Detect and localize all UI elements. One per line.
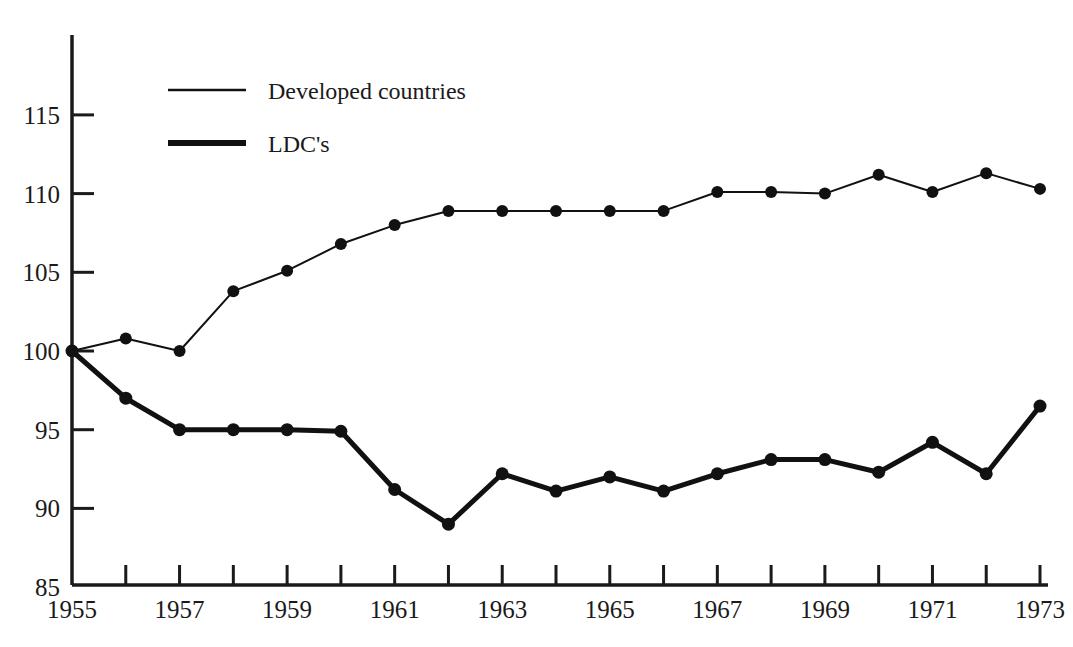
data-point xyxy=(281,265,293,277)
x-tick-label-1973: 1973 xyxy=(1015,596,1065,623)
data-point xyxy=(227,423,240,436)
data-point xyxy=(550,485,563,498)
data-point xyxy=(334,425,347,438)
data-point xyxy=(873,169,885,181)
data-point xyxy=(657,485,670,498)
chart-background xyxy=(0,0,1073,647)
data-point xyxy=(765,453,778,466)
data-point xyxy=(335,238,347,250)
data-point xyxy=(550,205,562,217)
data-point xyxy=(818,453,831,466)
x-tick-label-1961: 1961 xyxy=(370,596,420,623)
y-tick-label-110: 110 xyxy=(23,181,60,208)
data-point xyxy=(980,167,992,179)
data-point xyxy=(442,205,454,217)
data-point xyxy=(388,483,401,496)
data-point xyxy=(926,186,938,198)
data-point xyxy=(819,188,831,200)
x-tick-label-1963: 1963 xyxy=(477,596,527,623)
data-point xyxy=(980,467,993,480)
x-tick-label-1955: 1955 xyxy=(47,596,97,623)
data-point xyxy=(711,467,724,480)
y-tick-label-105: 105 xyxy=(23,259,61,286)
line-chart: 859095100105110115 195519571959196119631… xyxy=(0,0,1073,647)
data-point xyxy=(926,436,939,449)
data-point xyxy=(1034,400,1047,413)
x-tick-label-1969: 1969 xyxy=(800,596,850,623)
data-point xyxy=(603,470,616,483)
data-point xyxy=(281,423,294,436)
data-point xyxy=(765,186,777,198)
data-point xyxy=(1034,183,1046,195)
x-tick-label-1965: 1965 xyxy=(585,596,635,623)
data-point xyxy=(66,345,79,358)
legend-label-1: LDC's xyxy=(268,131,330,157)
y-tick-label-95: 95 xyxy=(35,417,60,444)
y-tick-label-100: 100 xyxy=(23,338,61,365)
x-tick-label-1957: 1957 xyxy=(155,596,205,623)
data-point xyxy=(173,423,186,436)
x-tick-label-1959: 1959 xyxy=(262,596,312,623)
data-point xyxy=(119,392,132,405)
data-point xyxy=(496,467,509,480)
chart-canvas: 859095100105110115 195519571959196119631… xyxy=(0,0,1073,647)
y-tick-label-115: 115 xyxy=(23,102,60,129)
data-point xyxy=(442,518,455,531)
data-point xyxy=(120,332,132,344)
data-point xyxy=(389,219,401,231)
x-tick-label-1967: 1967 xyxy=(692,596,742,623)
x-tick-label-1971: 1971 xyxy=(907,596,957,623)
data-point xyxy=(227,285,239,297)
data-point xyxy=(658,205,670,217)
data-point xyxy=(872,466,885,479)
legend-label-0: Developed countries xyxy=(268,78,466,104)
y-tick-label-90: 90 xyxy=(35,495,60,522)
data-point xyxy=(604,205,616,217)
data-point xyxy=(711,186,723,198)
data-point xyxy=(174,345,186,357)
data-point xyxy=(496,205,508,217)
